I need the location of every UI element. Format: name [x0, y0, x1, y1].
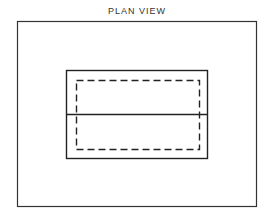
plan-view-drawing — [0, 0, 274, 220]
